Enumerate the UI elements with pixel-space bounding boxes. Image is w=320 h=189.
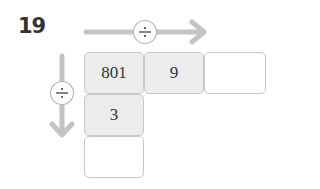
- cell-vertical-answer[interactable]: [84, 136, 144, 178]
- cell-dividend: 801: [84, 52, 144, 94]
- cell-horizontal-divisor: 9: [144, 52, 204, 94]
- vertical-divide-icon: [51, 82, 74, 105]
- cell-vertical-divisor: 3: [84, 94, 144, 136]
- cell-horizontal-answer[interactable]: [204, 52, 266, 94]
- horizontal-divide-icon: [134, 21, 157, 44]
